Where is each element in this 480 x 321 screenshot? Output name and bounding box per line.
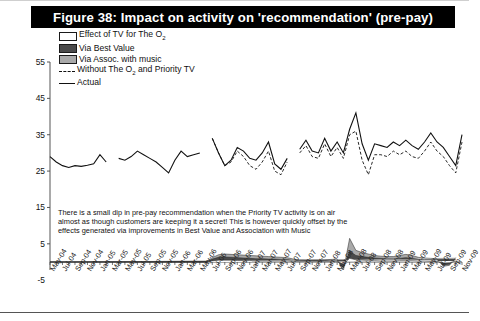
x-axis-tick-labels: May-04Jul-04Sep-04Nov-04Jan-05Mar-05May-… xyxy=(0,266,469,318)
chart-canvas xyxy=(0,55,469,270)
series-actual xyxy=(50,113,462,173)
y-tick-label: 35 xyxy=(23,130,45,140)
white-swatch-icon xyxy=(59,32,77,41)
figure-title-bar: Figure 38: Impact on activity on 'recomm… xyxy=(31,6,455,28)
dark-gray-swatch-icon xyxy=(59,44,77,53)
y-tick-label: 55 xyxy=(23,57,45,67)
series-without-o2-priority-tv xyxy=(212,131,462,175)
plot-area xyxy=(0,55,469,270)
legend-label-best-value: Via Best Value xyxy=(79,43,135,55)
top-divider xyxy=(0,0,469,1)
legend-item-effect-of-tv: Effect of TV for The O2 xyxy=(59,31,249,43)
y-tick-label: 5 xyxy=(23,239,45,249)
bottom-divider xyxy=(0,312,469,313)
y-tick-label: 15 xyxy=(23,202,45,212)
page-title: Figure 38: Impact on activity on 'recomm… xyxy=(53,10,433,25)
y-tick-label: 45 xyxy=(23,93,45,103)
y-tick-label: 25 xyxy=(23,166,45,176)
chart-annotation: There is a small dip in pre-pay recommen… xyxy=(58,208,350,235)
